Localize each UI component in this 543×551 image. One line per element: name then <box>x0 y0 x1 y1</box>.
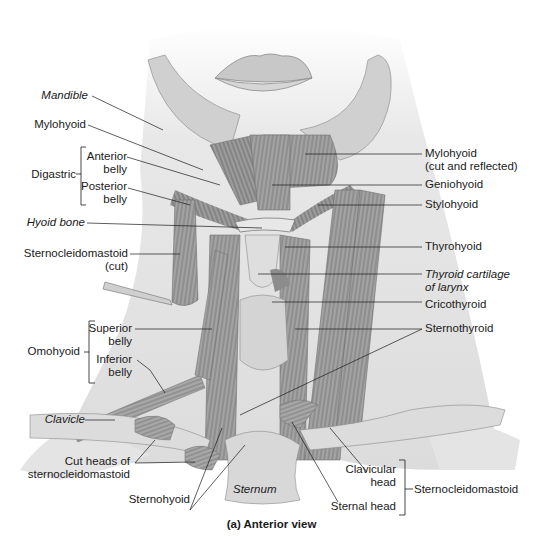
label-omohyoid: Omohyoid <box>28 345 80 358</box>
label-clavicle: Clavicle <box>45 413 85 426</box>
label-sternocleidomastoid: Sternocleidomastoid <box>414 483 518 496</box>
label-omohyoid-inferior-belly-2: belly <box>108 366 132 379</box>
label-sternohyoid: Sternohyoid <box>129 493 190 506</box>
label-digastric-posterior-belly-2: belly <box>103 193 127 206</box>
thyroid-gland <box>240 295 288 370</box>
label-mylohyoid-reflected-1: Mylohyoid <box>425 147 477 160</box>
label-clavicular-head-1: Clavicular <box>346 463 397 476</box>
label-mylohyoid-reflected-2: (cut and reflected) <box>425 160 518 173</box>
label-clavicular-head-2: head <box>370 476 396 489</box>
label-omohyoid-superior-belly-2: belly <box>108 335 132 348</box>
label-digastric-anterior-belly-1: Anterior <box>87 150 127 163</box>
label-cut-heads-2: sternocleidomastoid <box>28 468 130 481</box>
label-sternothyroid: Sternothyroid <box>425 322 493 335</box>
sternocleidomastoid-cut <box>172 200 198 306</box>
label-digastric-posterior-belly-1: Posterior <box>81 180 127 193</box>
label-cricothyroid: Cricothyroid <box>425 298 486 311</box>
label-sternocleidomastoid-cut-2: (cut) <box>105 260 128 273</box>
label-mylohyoid: Mylohyoid <box>34 118 86 131</box>
label-omohyoid-superior-belly-1: Superior <box>89 322 132 335</box>
figure-caption: (a) Anterior view <box>0 518 543 530</box>
label-stylohyoid: Stylohyoid <box>425 198 478 211</box>
label-cut-heads-1: Cut heads of <box>65 455 130 468</box>
label-sternocleidomastoid-cut-1: Sternocleidomastoid <box>24 247 128 260</box>
label-sternal-head: Sternal head <box>331 500 396 513</box>
label-thyrohyoid: Thyrohyoid <box>425 240 482 253</box>
label-mandible: Mandible <box>41 89 88 102</box>
label-sternum: Sternum <box>233 483 276 496</box>
label-hyoid-bone: Hyoid bone <box>27 216 85 229</box>
label-digastric: Digastric <box>31 168 76 181</box>
hyoid-bone <box>235 218 295 232</box>
label-thyroid-cartilage-2: of larynx <box>425 281 468 294</box>
label-omohyoid-inferior-belly-1: Inferior <box>96 353 132 366</box>
label-geniohyoid: Geniohyoid <box>425 178 483 191</box>
label-thyroid-cartilage-1: Thyroid cartilage <box>425 268 510 281</box>
label-digastric-anterior-belly-2: belly <box>103 163 127 176</box>
